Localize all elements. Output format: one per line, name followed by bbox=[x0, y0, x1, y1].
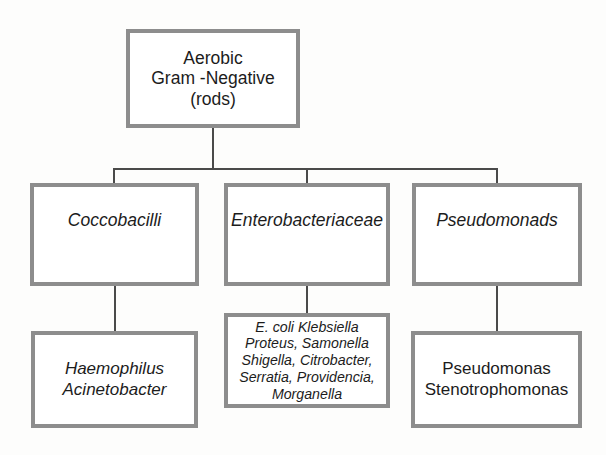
node-pseudomonads-species-label: Pseudomonas Stenotrophomonas bbox=[425, 359, 569, 399]
node-coccobacilli-species-label: Haemophilus Acinetobacter bbox=[63, 359, 167, 399]
connector-bus-to-enterobacteriaceae bbox=[306, 168, 308, 184]
node-enterobacteriaceae-species-label: E. coli Klebsiella Proteus, Samonella Sh… bbox=[239, 319, 375, 403]
node-pseudomonads-species[interactable]: Pseudomonas Stenotrophomonas bbox=[411, 331, 582, 428]
node-coccobacilli-species[interactable]: Haemophilus Acinetobacter bbox=[31, 331, 198, 428]
connector-pseudomonads-to-species bbox=[496, 285, 498, 332]
node-root-label: Aerobic Gram -Negative (rods) bbox=[151, 48, 275, 110]
node-pseudomonads[interactable]: Pseudomonads bbox=[412, 183, 582, 286]
node-enterobacteriaceae[interactable]: Enterobacteriaceae bbox=[224, 183, 390, 286]
connector-enterobacteriaceae-to-species bbox=[306, 285, 308, 314]
connector-bus-to-coccobacilli bbox=[113, 168, 115, 184]
connector-bus-to-pseudomonads bbox=[496, 168, 498, 184]
node-enterobacteriaceae-label: Enterobacteriaceae bbox=[231, 187, 383, 231]
connector-coccobacilli-to-species bbox=[114, 285, 116, 332]
node-coccobacilli-label: Coccobacilli bbox=[68, 187, 161, 231]
node-enterobacteriaceae-species[interactable]: E. coli Klebsiella Proteus, Samonella Sh… bbox=[224, 313, 390, 408]
node-aerobic-gram-negative-rods[interactable]: Aerobic Gram -Negative (rods) bbox=[126, 29, 300, 128]
diagram-canvas: Aerobic Gram -Negative (rods) Coccobacil… bbox=[0, 0, 606, 455]
node-pseudomonads-label: Pseudomonads bbox=[436, 187, 558, 231]
connector-root-to-bus bbox=[212, 128, 214, 169]
node-coccobacilli[interactable]: Coccobacilli bbox=[30, 183, 199, 286]
